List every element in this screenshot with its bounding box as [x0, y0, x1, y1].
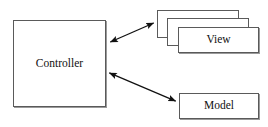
model-node-label: Model — [204, 100, 234, 112]
controller-node-label: Controller — [36, 58, 83, 70]
controller-node[interactable]: Controller — [13, 20, 106, 107]
model-node[interactable]: Model — [179, 93, 259, 119]
controller-view-arrow[interactable] — [110, 23, 153, 42]
view-node-label: View — [206, 34, 230, 46]
view-node[interactable]: View — [178, 27, 259, 53]
controller-model-arrow[interactable] — [109, 73, 175, 101]
mvc-diagram: Controller View Model — [0, 0, 268, 127]
